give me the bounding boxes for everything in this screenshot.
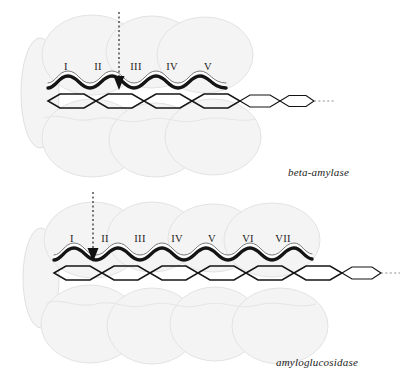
subsite-label-iii: III <box>130 62 141 73</box>
subsite-label-iv: IV <box>171 234 183 245</box>
subsite-label-vi: VI <box>242 234 254 245</box>
caption-amyloglucosidase: amyloglucosidase <box>276 356 358 368</box>
subsite-label-i: I <box>70 234 74 245</box>
subsite-labels-bottom: I II III IV V VI VII <box>0 190 406 380</box>
subsite-label-ii: II <box>101 234 109 245</box>
subsite-label-iv: IV <box>166 62 178 73</box>
caption-beta-amylase: beta-amylase <box>288 166 349 178</box>
panel-beta-amylase: I II III IV V beta-amylase <box>0 0 406 190</box>
subsite-label-iii: III <box>134 234 145 245</box>
subsite-label-vii: VII <box>275 234 290 245</box>
subsite-label-v: V <box>204 62 212 73</box>
panel-amyloglucosidase: I II III IV V VI VII amyloglucosidase <box>0 190 406 380</box>
subsite-label-ii: II <box>94 62 102 73</box>
subsite-label-v: V <box>208 234 216 245</box>
subsite-label-i: I <box>64 62 68 73</box>
panel-beta-amylase-stage: I II III IV V beta-amylase <box>0 0 406 190</box>
panel-amyloglucosidase-stage: I II III IV V VI VII amyloglucosidase <box>0 190 406 380</box>
subsite-labels-top: I II III IV V <box>0 0 406 190</box>
